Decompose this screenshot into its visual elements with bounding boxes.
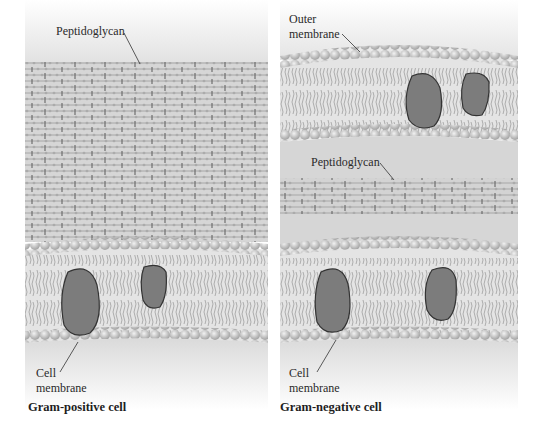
membrane-protein	[315, 269, 350, 332]
cell-membrane-label-line1: Cell	[36, 366, 56, 380]
peptidoglycan-label: Peptidoglycan	[311, 155, 380, 169]
gram-positive-caption: Gram-positive cell	[28, 400, 126, 415]
cell-membrane-label-line2: membrane	[289, 381, 340, 395]
membrane-protein	[141, 265, 166, 308]
membrane-protein	[62, 269, 100, 335]
cell-membrane-label-line2: membrane	[36, 381, 87, 395]
gram-negative-caption: Gram-negative cell	[280, 400, 382, 415]
outer-membrane-protein	[406, 74, 441, 128]
membrane-protein	[425, 268, 456, 321]
peptidoglycan-thick-layer	[25, 62, 268, 242]
outer-membrane-protein	[462, 73, 490, 116]
peptidoglycan-thin-layer	[280, 178, 518, 214]
outer-membrane-label-line1: Outer	[289, 12, 316, 26]
gram-negative-illustration	[270, 0, 533, 436]
cell-membrane-label-line1: Cell	[289, 366, 309, 380]
peptidoglycan-label: Peptidoglycan	[56, 24, 125, 38]
gram-positive-panel: Peptidoglycan Cell membrane Gram-positiv…	[0, 0, 270, 436]
outer-membrane-label-line2: membrane	[289, 27, 340, 41]
gram-negative-panel: Outer membrane Peptidoglycan Cell membra…	[270, 0, 533, 436]
